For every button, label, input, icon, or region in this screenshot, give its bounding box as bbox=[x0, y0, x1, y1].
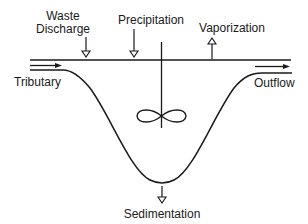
precipitation-label: Precipitation bbox=[118, 13, 184, 27]
sedimentation-label: Sedimentation bbox=[124, 207, 201, 221]
tributary-label: Tributary bbox=[14, 75, 61, 89]
vaporization-arrow bbox=[208, 38, 216, 59]
precipitation-arrow bbox=[130, 29, 138, 57]
waste-discharge-label-line2: Discharge bbox=[36, 22, 90, 36]
sedimentation-arrow bbox=[158, 186, 166, 203]
lake-diagram: Waste Discharge Precipitation Vaporizati… bbox=[0, 0, 308, 224]
tributary-arrow bbox=[30, 63, 62, 68]
outflow-arrow bbox=[255, 64, 290, 69]
waste-discharge-arrow bbox=[82, 37, 90, 57]
mixer-icon bbox=[137, 42, 186, 128]
vaporization-label: Vaporization bbox=[199, 21, 265, 35]
outflow-label: Outflow bbox=[254, 76, 295, 90]
waste-discharge-label-line1: Waste bbox=[46, 9, 80, 23]
